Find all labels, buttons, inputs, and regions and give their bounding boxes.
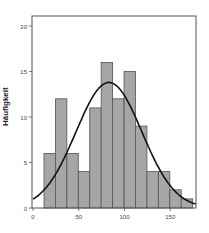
- y-tick-label: 20: [20, 24, 27, 30]
- y-tick-label: 10: [20, 115, 27, 121]
- histogram-bar: [90, 108, 101, 208]
- y-tick-label: 15: [20, 69, 27, 75]
- histogram-chart: 05101520 050100150: [0, 0, 209, 233]
- y-tick-label: 0: [24, 206, 28, 212]
- x-tick-label: 150: [165, 214, 176, 220]
- histogram-bar: [67, 153, 78, 208]
- y-axis-ticks: 05101520: [20, 24, 32, 212]
- y-tick-label: 5: [24, 160, 28, 166]
- histogram-bar: [78, 172, 89, 208]
- histogram-bar: [113, 99, 124, 208]
- histogram-bar: [55, 99, 66, 208]
- x-tick-label: 100: [119, 214, 130, 220]
- histogram-bar: [124, 72, 135, 209]
- histogram-bar: [147, 172, 158, 208]
- x-tick-label: 0: [31, 214, 35, 220]
- histogram-bar: [44, 153, 55, 208]
- x-axis-ticks: 050100150: [31, 208, 176, 220]
- x-tick-label: 50: [75, 214, 82, 220]
